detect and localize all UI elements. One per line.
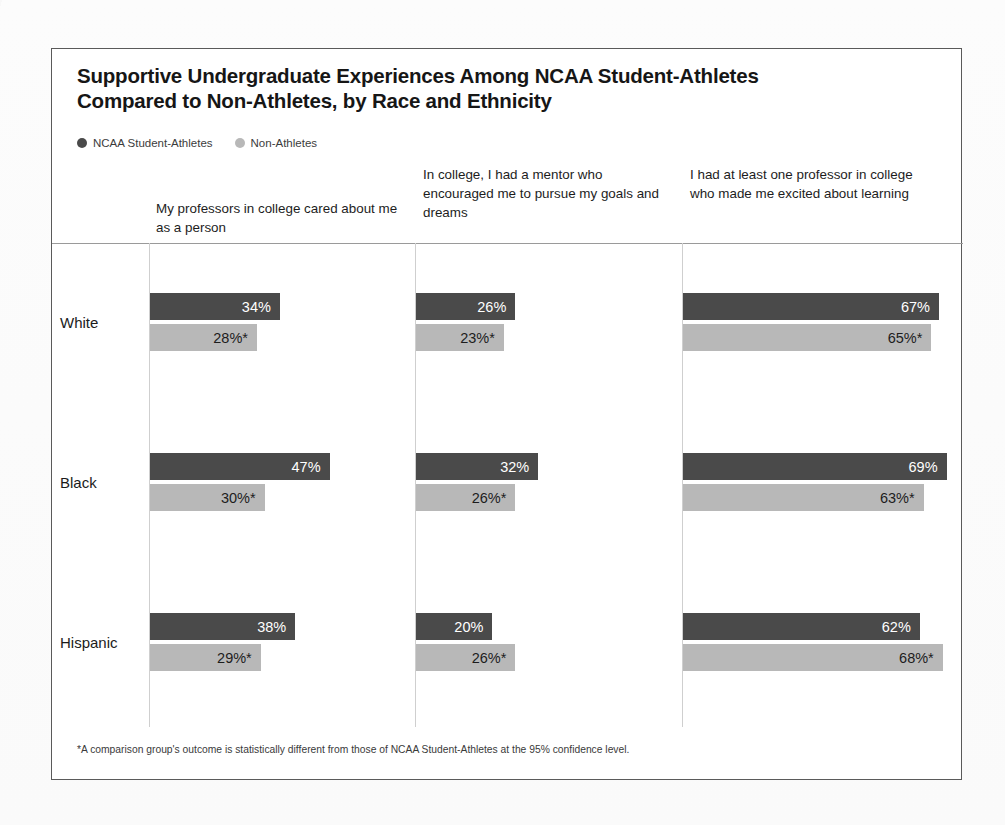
bar-nonathlete: 26%* bbox=[416, 484, 515, 511]
legend-label-nonathletes: Non-Athletes bbox=[251, 137, 317, 149]
bar-athlete: 20% bbox=[416, 613, 492, 640]
panel-1-hispanic: 38% 29%* bbox=[150, 613, 415, 671]
header-rule bbox=[52, 243, 963, 244]
legend-swatch-nonathletes-icon bbox=[235, 138, 245, 148]
bar-nonathlete: 29%* bbox=[150, 644, 261, 671]
panel-2-black: 32% 26%* bbox=[416, 453, 682, 511]
row-label-white: White bbox=[60, 293, 144, 351]
legend-item-athletes: NCAA Student-Athletes bbox=[77, 137, 213, 149]
panel-1-white: 34% 28%* bbox=[150, 293, 415, 351]
bar-nonathlete: 63%* bbox=[683, 484, 924, 511]
chart-legend: NCAA Student-Athletes Non-Athletes bbox=[77, 137, 317, 149]
panel-header-3: I had at least one professor in college … bbox=[690, 165, 938, 203]
bar-nonathlete: 23%* bbox=[416, 324, 504, 351]
group-white: White 34% 28%* 26% 23%* 67% 65%* bbox=[52, 293, 963, 351]
plot-area: White 34% 28%* 26% 23%* 67% 65%* Black 4… bbox=[52, 243, 963, 727]
group-black: Black 47% 30%* 32% 26%* 69% 63%* bbox=[52, 453, 963, 511]
bar-nonathlete: 28%* bbox=[150, 324, 257, 351]
panel-headers: My professors in college cared about me … bbox=[52, 161, 961, 243]
bar-athlete: 47% bbox=[150, 453, 330, 480]
chart-title-line-1: Supportive Undergraduate Experiences Amo… bbox=[77, 64, 759, 87]
legend-label-athletes: NCAA Student-Athletes bbox=[93, 137, 213, 149]
row-label-hispanic: Hispanic bbox=[60, 613, 144, 671]
bar-nonathlete: 65%* bbox=[683, 324, 931, 351]
panel-3-black: 69% 63%* bbox=[683, 453, 951, 511]
panel-3-hispanic: 62% 68%* bbox=[683, 613, 951, 671]
panel-2-white: 26% 23%* bbox=[416, 293, 682, 351]
legend-item-nonathletes: Non-Athletes bbox=[235, 137, 317, 149]
row-label-black: Black bbox=[60, 453, 144, 511]
bar-nonathlete: 68%* bbox=[683, 644, 943, 671]
chart-footnote: *A comparison group's outcome is statist… bbox=[77, 743, 927, 757]
bar-nonathlete: 30%* bbox=[150, 484, 265, 511]
chart-card: Supportive Undergraduate Experiences Amo… bbox=[51, 48, 962, 780]
panel-1-black: 47% 30%* bbox=[150, 453, 415, 511]
bar-athlete: 62% bbox=[683, 613, 920, 640]
panel-3-white: 67% 65%* bbox=[683, 293, 951, 351]
panel-2-hispanic: 20% 26%* bbox=[416, 613, 682, 671]
bar-athlete: 34% bbox=[150, 293, 280, 320]
bar-athlete: 32% bbox=[416, 453, 538, 480]
panel-header-2: In college, I had a mentor who encourage… bbox=[423, 165, 673, 222]
legend-swatch-athletes-icon bbox=[77, 138, 87, 148]
bar-athlete: 67% bbox=[683, 293, 939, 320]
bar-nonathlete: 26%* bbox=[416, 644, 515, 671]
bar-athlete: 69% bbox=[683, 453, 947, 480]
bar-athlete: 26% bbox=[416, 293, 515, 320]
chart-title: Supportive Undergraduate Experiences Amo… bbox=[77, 63, 917, 113]
group-hispanic: Hispanic 38% 29%* 20% 26%* 62% 68%* bbox=[52, 613, 963, 671]
chart-title-line-2: Compared to Non-Athletes, by Race and Et… bbox=[77, 88, 917, 113]
panel-header-1: My professors in college cared about me … bbox=[156, 199, 406, 237]
bar-athlete: 38% bbox=[150, 613, 295, 640]
